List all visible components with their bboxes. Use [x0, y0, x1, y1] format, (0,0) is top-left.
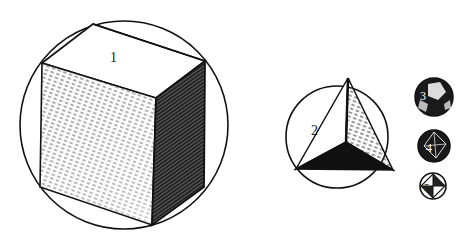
solid-5-octahedron: 5 — [420, 173, 446, 199]
label-5: 5 — [424, 181, 430, 193]
solid-3-dodecahedron: 3 — [415, 78, 453, 116]
label-4: 4 — [426, 141, 432, 155]
solid-2-tetrahedron: 2 — [286, 78, 393, 188]
platonic-solids-diagram: 1 2 3 4 5 — [0, 0, 472, 248]
label-3: 3 — [420, 89, 426, 103]
label-1: 1 — [110, 50, 117, 65]
solid-4-icosahedron: 4 — [418, 130, 450, 162]
label-2: 2 — [311, 123, 318, 138]
solid-1-cube: 1 — [20, 21, 228, 229]
